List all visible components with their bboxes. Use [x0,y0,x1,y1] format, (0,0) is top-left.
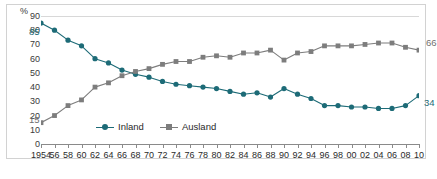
x-axis-tick-mark [406,144,407,148]
data-point [214,53,219,58]
data-point [241,92,246,97]
data-point [309,49,314,54]
data-point [41,21,44,26]
legend-square-icon [160,123,178,132]
x-axis-tick-label: 06 [387,150,397,160]
x-axis-tick-mark [190,144,191,148]
x-axis-tick-label: 88 [265,150,275,160]
data-point [268,94,273,99]
data-point [160,62,165,67]
x-axis-tick-mark [284,144,285,148]
x-axis-tick-label: 08 [400,150,410,160]
data-point [376,106,381,111]
x-axis-tick-label: 62 [90,150,100,160]
x-axis-tick-mark [244,144,245,148]
data-point [322,103,327,108]
data-point [241,51,246,56]
y-axis-tick-label: 50 [30,68,40,77]
data-point [79,43,84,48]
x-axis-tick-mark [230,144,231,148]
legend-label: Ausland [182,122,216,132]
x-axis-tick-mark [95,144,96,148]
x-axis-tick-mark [217,144,218,148]
x-axis-tick-mark [68,144,69,148]
x-axis-tick-label: 70 [144,150,154,160]
x-axis-tick-label: 82 [225,150,235,160]
data-point [187,83,192,88]
data-point [228,55,233,60]
x-axis-tick-mark [419,144,420,148]
x-axis-tick-label: 1954 [31,150,51,160]
data-point [417,48,419,53]
data-point [52,28,57,33]
data-point [362,104,367,109]
data-point [120,73,125,78]
legend-item-inland[interactable]: Inland [96,122,144,132]
y-axis-tick-label: 10 [30,125,40,134]
series-ausland [41,41,419,125]
data-point [336,43,341,48]
data-point [403,45,408,50]
x-axis-tick-mark [392,144,393,148]
data-point [227,89,232,94]
x-axis-tick-label: 92 [292,150,302,160]
data-point [201,55,206,60]
data-point [79,98,84,103]
x-axis-tick-mark [257,144,258,148]
x-axis-tick-mark [203,144,204,148]
y-axis-tick-label: 40 [30,83,40,92]
x-axis-tick-mark [176,144,177,148]
data-point [376,41,381,46]
value-callout-85: 85 [29,27,40,37]
y-axis-tick-label: 0 [35,140,40,149]
x-axis-tick-mark [55,144,56,148]
y-axis-tick-label: 70 [30,40,40,49]
x-axis: 1954565860626466687072747678808284868890… [41,144,419,170]
data-point [214,86,219,91]
x-axis-tick-label: 56 [49,150,59,160]
x-axis-tick-label: 04 [373,150,383,160]
y-axis-tick-label: 30 [30,97,40,106]
data-point [349,43,354,48]
series-line [41,23,419,108]
data-point [66,103,71,108]
x-axis-tick-mark [271,144,272,148]
x-axis-tick-label: 74 [171,150,181,160]
data-point [295,51,300,56]
x-axis-tick-label: 00 [346,150,356,160]
x-axis-tick-label: 68 [130,150,140,160]
x-axis-tick-mark [149,144,150,148]
x-axis-tick-label: 58 [63,150,73,160]
data-point [308,96,313,101]
x-axis-tick-label: 84 [238,150,248,160]
x-axis-tick-label: 78 [198,150,208,160]
data-point [187,59,192,64]
value-callout-15: 15 [29,115,40,125]
data-point [200,85,205,90]
data-point [93,85,98,90]
x-axis-tick-label: 86 [252,150,262,160]
data-point [41,120,43,125]
x-axis-tick-mark [365,144,366,148]
x-axis-tick-mark [325,144,326,148]
data-point [52,113,57,118]
data-point [160,79,165,84]
data-point [322,43,327,48]
data-point [255,51,260,56]
x-axis-tick-label: 76 [184,150,194,160]
x-axis-tick-mark [311,144,312,148]
data-point [174,59,179,64]
legend-item-ausland[interactable]: Ausland [160,122,216,132]
x-axis-tick-label: 90 [279,150,289,160]
data-point [389,106,394,111]
data-point [268,48,273,53]
data-point [147,66,152,71]
value-callout-34: 34 [424,98,435,108]
x-axis-tick-mark [379,144,380,148]
x-axis-tick-label: 66 [117,150,127,160]
data-point [363,42,368,47]
x-axis-tick-mark [82,144,83,148]
x-axis-tick-label: 80 [211,150,221,160]
legend-circle-icon [96,123,114,132]
data-point [282,58,287,63]
